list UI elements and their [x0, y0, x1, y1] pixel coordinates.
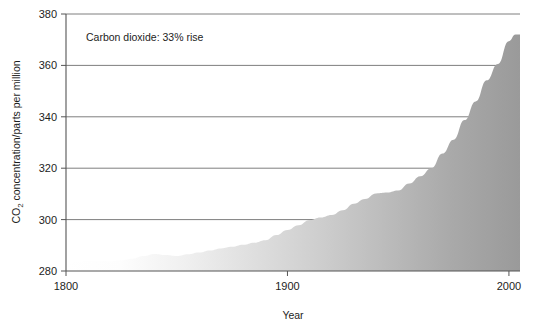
y-axis-title: CO2 concentration/parts per million — [10, 60, 25, 223]
x-axis-title: Year — [282, 309, 304, 321]
svg-text:CO2 concentration/parts per mi: CO2 concentration/parts per million — [10, 60, 25, 223]
x-tick-label: 2000 — [497, 280, 521, 292]
y-tick-label: 380 — [39, 8, 57, 20]
y-tick-label: 340 — [39, 111, 57, 123]
y-tick-label: 360 — [39, 59, 57, 71]
x-tick-label: 1900 — [275, 280, 299, 292]
chart-annotation: Carbon dioxide: 33% rise — [86, 31, 203, 43]
x-tick-label: 1800 — [54, 280, 78, 292]
co2-concentration-chart: 280300320340360380 180019002000 Carbon d… — [0, 0, 538, 331]
chart-svg: 280300320340360380 180019002000 Carbon d… — [0, 0, 538, 331]
y-axis-ticks: 280300320340360380 — [39, 8, 66, 277]
y-tick-label: 280 — [39, 265, 57, 277]
y-axis-title-suffix: concentration/parts per million — [10, 60, 22, 203]
y-axis-title-prefix: CO — [10, 208, 22, 224]
x-axis-ticks: 180019002000 — [54, 271, 521, 292]
y-tick-label: 300 — [39, 214, 57, 226]
y-tick-label: 320 — [39, 162, 57, 174]
